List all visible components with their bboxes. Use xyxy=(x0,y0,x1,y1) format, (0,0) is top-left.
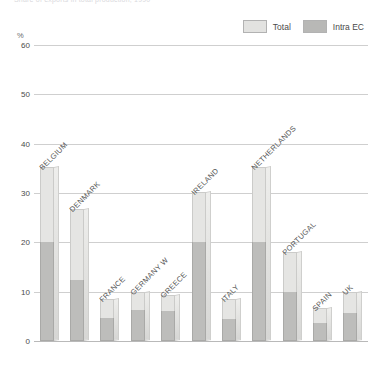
y-tick-label-20: 20 xyxy=(21,238,30,247)
chart-legend: Total Intra EC xyxy=(243,20,364,33)
axis-baseline xyxy=(34,341,368,342)
bar-segment-intra-ec xyxy=(131,310,145,341)
bar-segment-intra-ec xyxy=(70,280,84,341)
bar-segment-intra-ec xyxy=(343,313,357,341)
bar-side-face xyxy=(297,251,302,341)
bar-segment-total xyxy=(40,167,54,242)
bar-segment-total xyxy=(283,252,297,291)
bar-segment-total xyxy=(252,167,266,242)
bar-segment-total xyxy=(192,192,206,242)
bar-segment-intra-ec xyxy=(252,242,266,341)
bar-side-face xyxy=(236,298,241,341)
y-tick-label-30: 30 xyxy=(21,189,30,198)
bar-segment-intra-ec xyxy=(100,318,114,341)
bar-side-face xyxy=(327,307,332,341)
bar-front-face xyxy=(161,295,175,341)
bar-front-face xyxy=(100,299,114,341)
plot-area: 0102030405060 BELGIUMDENMARKFRANCEGERMAN… xyxy=(34,45,368,341)
bar-front-face xyxy=(222,299,236,341)
bar-front-face xyxy=(70,209,84,341)
y-tick-label-60: 60 xyxy=(21,41,30,50)
bar-side-face xyxy=(54,166,59,341)
y-tick-label-50: 50 xyxy=(21,90,30,99)
bar-side-face xyxy=(206,191,211,341)
y-axis-unit-label: % xyxy=(17,31,24,40)
bar-segment-intra-ec xyxy=(313,323,327,341)
bar-front-face xyxy=(131,292,145,341)
legend-label-intra-ec: Intra EC xyxy=(333,22,364,32)
y-tick-label-40: 40 xyxy=(21,139,30,148)
legend-label-total: Total xyxy=(273,22,291,32)
bar-series-group: BELGIUMDENMARKFRANCEGERMANY WGREECEIRELA… xyxy=(34,45,368,341)
legend-entry-intra-ec[interactable]: Intra EC xyxy=(303,20,364,33)
chart-caption: Share of exports in total production, 19… xyxy=(14,0,150,3)
bar-side-face xyxy=(145,291,150,341)
bar-front-face xyxy=(40,167,54,341)
bar-front-face xyxy=(343,292,357,341)
legend-swatch-intra-ec-icon xyxy=(303,20,327,33)
y-tick-label-10: 10 xyxy=(21,287,30,296)
bar-side-face xyxy=(266,166,271,341)
bar-side-face xyxy=(175,294,180,341)
bar-segment-intra-ec xyxy=(283,292,297,341)
bar-segment-intra-ec xyxy=(40,242,54,341)
bar-front-face xyxy=(313,308,327,341)
chart-container: Share of exports in total production, 19… xyxy=(0,0,372,376)
bar-side-face xyxy=(84,208,89,341)
bar-side-face xyxy=(357,291,362,341)
category-label: NETHERLANDS xyxy=(250,124,298,172)
bar-segment-intra-ec xyxy=(192,242,206,341)
bar-side-face xyxy=(114,298,119,341)
bar-front-face xyxy=(252,167,266,341)
bar-front-face xyxy=(192,192,206,341)
bar-segment-total xyxy=(70,209,84,280)
bar-segment-intra-ec xyxy=(222,319,236,341)
y-tick-label-0: 0 xyxy=(26,337,30,346)
bar-segment-intra-ec xyxy=(161,311,175,341)
legend-entry-total[interactable]: Total xyxy=(243,20,291,33)
legend-swatch-total-icon xyxy=(243,20,267,33)
bar-front-face xyxy=(283,252,297,341)
